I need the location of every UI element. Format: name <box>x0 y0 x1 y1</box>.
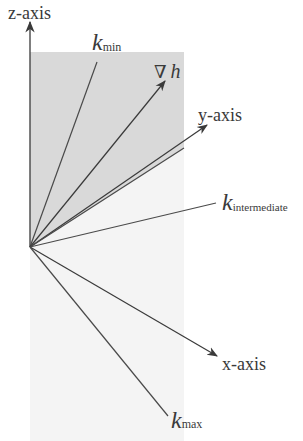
k-intermediate-label: kintermediate <box>222 189 288 215</box>
y-axis-label: y-axis <box>198 105 242 125</box>
k-min-label: kmin <box>92 29 121 55</box>
k-max-label: kmax <box>171 407 202 433</box>
direction-diagram: z-axis kmin ∇h y-axis kintermediate x-ax… <box>0 0 303 441</box>
z-axis-label: z-axis <box>8 3 51 23</box>
x-axis-label: x-axis <box>222 354 266 374</box>
